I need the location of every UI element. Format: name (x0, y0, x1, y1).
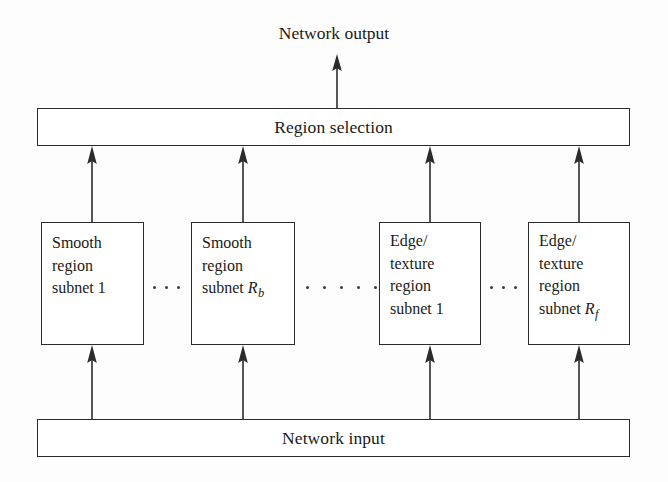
subnet-box-edge-texture-rf[interactable]: Edge/ texture region subnet Rf (528, 222, 630, 345)
input-arrow-4-icon (572, 345, 586, 419)
subnet-line: texture (539, 253, 599, 276)
subnet-smooth-1-label: Smooth region subnet 1 (52, 232, 106, 300)
selection-arrow-4-icon (572, 146, 586, 223)
subnet-line: Smooth (52, 232, 106, 255)
selection-arrow-1-icon (85, 146, 99, 223)
subnet-variable: R (248, 279, 258, 296)
subnet-line: subnet 1 (52, 277, 106, 300)
ellipsis-between-region-groups (306, 286, 377, 289)
network-output-label: Network output (0, 23, 668, 44)
ellipsis-between-smooth-subnets (153, 286, 180, 289)
subnet-line: subnet 1 (390, 298, 444, 321)
input-arrow-2-icon (236, 345, 250, 419)
ellipsis-dot (306, 286, 309, 289)
subnet-edge-rf-label: Edge/ texture region subnet Rf (539, 230, 599, 323)
output-arrow-icon (330, 54, 344, 110)
subnet-variable-subscript: f (595, 307, 599, 321)
selection-arrow-2-icon (236, 146, 250, 223)
subnet-line: region (539, 275, 599, 298)
subnet-edge-1-label: Edge/ texture region subnet 1 (390, 230, 444, 321)
subnet-box-smooth-rb[interactable]: Smooth region subnet Rb (191, 222, 295, 345)
subnet-line: subnet Rf (539, 298, 599, 323)
subnet-line: Edge/ (539, 230, 599, 253)
diagram-canvas: Network output Region selection (0, 0, 668, 482)
subnet-box-smooth-1[interactable]: Smooth region subnet 1 (41, 222, 144, 345)
subnet-line: region (52, 255, 106, 278)
ellipsis-dot (177, 286, 180, 289)
input-arrow-1-icon (85, 345, 99, 419)
selection-arrow-3-icon (423, 146, 437, 223)
subnet-line: Edge/ (390, 230, 444, 253)
ellipsis-dot (374, 286, 377, 289)
ellipsis-between-edge-subnets (490, 286, 517, 289)
ellipsis-dot (340, 286, 343, 289)
region-selection-box[interactable]: Region selection (37, 108, 630, 146)
subnet-variable-subscript: b (258, 286, 265, 300)
input-arrow-3-icon (423, 345, 437, 419)
subnet-line: region (390, 275, 444, 298)
subnet-line: subnet Rb (202, 277, 264, 302)
region-selection-label: Region selection (274, 117, 393, 138)
subnet-line: texture (390, 253, 444, 276)
ellipsis-dot (323, 286, 326, 289)
ellipsis-dot (502, 286, 505, 289)
subnet-variable: R (585, 300, 595, 317)
subnet-smooth-rb-label: Smooth region subnet Rb (202, 232, 264, 303)
ellipsis-dot (153, 286, 156, 289)
ellipsis-dot (490, 286, 493, 289)
subnet-box-edge-texture-1[interactable]: Edge/ texture region subnet 1 (379, 222, 481, 345)
ellipsis-dot (165, 286, 168, 289)
subnet-line: Smooth (202, 232, 264, 255)
subnet-line: region (202, 255, 264, 278)
network-input-label: Network input (282, 428, 385, 449)
ellipsis-dot (357, 286, 360, 289)
ellipsis-dot (514, 286, 517, 289)
network-input-box[interactable]: Network input (37, 419, 630, 457)
